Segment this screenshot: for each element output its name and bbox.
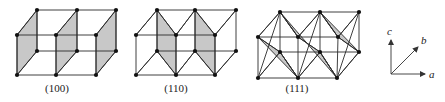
lattice-point (256, 35, 260, 39)
lattice-edge (215, 10, 236, 35)
lattice-point (174, 73, 178, 77)
lattice-plane-1 (157, 10, 176, 75)
axis-c-label: c (387, 25, 392, 37)
unit-cell-panel-2: (110) (134, 8, 238, 95)
lattice-point (94, 33, 98, 37)
lattice-point (296, 35, 300, 39)
lattice-point (54, 33, 58, 37)
lattice-point (256, 76, 260, 80)
lattice-point (336, 35, 340, 39)
lattice-edge (258, 12, 280, 78)
lattice-edge (338, 12, 359, 37)
lattice-point (134, 33, 138, 37)
axis-a-label: a (429, 68, 435, 80)
lattice-point (278, 50, 282, 54)
lattice-edge (298, 12, 320, 37)
lattice-point (318, 10, 322, 14)
lattice-edge (176, 10, 195, 35)
unit-cell-panel-3: (111) (256, 10, 361, 95)
axes-legend: abc (387, 25, 435, 80)
lattice-edge (136, 10, 157, 35)
miller-index-label: (110) (164, 82, 188, 95)
lattice-edge (320, 12, 338, 37)
lattice-plane-1 (17, 10, 37, 75)
lattice-point (357, 10, 361, 14)
lattice-edge (215, 51, 236, 75)
lattice-point (134, 73, 138, 77)
lattice-edge (258, 52, 280, 78)
lattice-point (357, 50, 361, 54)
lattice-edge (258, 12, 280, 37)
lattice-point (174, 33, 178, 37)
lattice-point (75, 49, 79, 53)
lattice-point (193, 49, 197, 53)
miller-index-label: (100) (45, 82, 69, 95)
lattice-plane-3 (96, 10, 116, 75)
lattice-plane-2 (195, 10, 215, 75)
lattice-edge (176, 51, 195, 75)
lattice-point (193, 8, 197, 12)
lattice-point (213, 33, 217, 37)
miller-planes-diagram: (100)(110)(111)abc (0, 0, 445, 102)
lattice-point (155, 49, 159, 53)
lattice-point (15, 73, 19, 77)
lattice-edge (337, 52, 359, 78)
axis-b-arrow-icon (391, 47, 418, 74)
lattice-point (278, 10, 282, 14)
lattice-point (114, 49, 118, 53)
lattice-point (318, 50, 322, 54)
lattice-point (75, 8, 79, 12)
axis-b-label: b (421, 34, 427, 46)
lattice-point (234, 49, 238, 53)
lattice-edge (320, 52, 337, 78)
lattice-plane-2 (56, 10, 77, 75)
lattice-edge (136, 51, 157, 75)
lattice-point (335, 76, 339, 80)
lattice-point (155, 8, 159, 12)
crystal-lattice-figure: (100)(110)(111)abc (0, 0, 445, 102)
unit-cell-panel-1: (100) (15, 8, 118, 95)
lattice-edge (337, 37, 338, 78)
lattice-point (35, 49, 39, 53)
lattice-point (234, 8, 238, 12)
lattice-edge (337, 12, 359, 78)
miller-index-label: (111) (285, 82, 308, 95)
lattice-plane-1 (258, 37, 298, 78)
lattice-edge (298, 12, 320, 78)
lattice-point (94, 73, 98, 77)
lattice-edge (280, 12, 298, 37)
lattice-plane-3 (320, 12, 359, 52)
lattice-edge (280, 52, 298, 78)
lattice-point (54, 73, 58, 77)
lattice-point (296, 76, 300, 80)
lattice-point (15, 33, 19, 37)
lattice-edge (298, 52, 320, 78)
lattice-point (213, 73, 217, 77)
lattice-point (114, 8, 118, 12)
lattice-point (35, 8, 39, 12)
